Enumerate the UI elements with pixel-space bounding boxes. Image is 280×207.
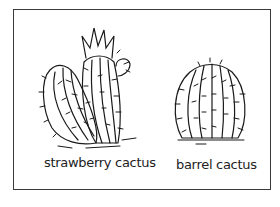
barrel-cactus-drawing [175,64,245,144]
strawberry-cactus-label: strawberry cactus [44,155,156,170]
barrel-cactus-label: barrel cactus [176,157,257,172]
cactus-illustration [0,0,280,207]
strawberry-cactus-drawing [43,28,136,148]
spines [39,50,245,137]
